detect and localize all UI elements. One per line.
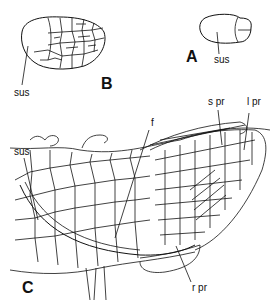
- panel-label-c: C: [22, 280, 34, 296]
- figure-drawing: [0, 0, 279, 300]
- label-sus-b: sus: [14, 88, 30, 98]
- panel-c-tissue: [10, 122, 270, 300]
- pointer-f: [115, 130, 149, 238]
- panel-label-a: A: [186, 49, 198, 65]
- label-sus-a: sus: [214, 55, 230, 65]
- label-sus-c: sus: [14, 147, 30, 157]
- label-r-pr: r pr: [192, 283, 207, 293]
- pointer-sus-c: [24, 158, 38, 220]
- pointer-s-pr: [218, 110, 222, 145]
- label-l-pr: l pr: [247, 97, 261, 107]
- panel-label-b: B: [101, 76, 113, 92]
- label-f: f: [151, 118, 154, 128]
- label-s-pr: s pr: [208, 97, 225, 107]
- panel-b-embryo: [22, 17, 106, 69]
